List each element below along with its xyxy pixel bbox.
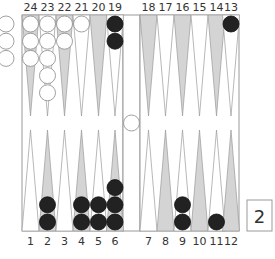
black-checker[interactable]	[40, 214, 56, 230]
black-checker[interactable]	[107, 16, 123, 32]
point-label-5: 5	[95, 235, 102, 248]
white-checker[interactable]	[40, 33, 56, 49]
white-checker[interactable]	[23, 16, 39, 32]
point-label-2: 2	[44, 235, 51, 248]
white-checker[interactable]	[23, 50, 39, 66]
white-checker[interactable]	[40, 68, 56, 84]
point-label-15: 15	[193, 1, 207, 14]
doubling-cube[interactable]: 2	[247, 200, 272, 231]
black-checker[interactable]	[74, 214, 90, 230]
point-label-21: 21	[75, 1, 89, 14]
white-checker[interactable]	[74, 16, 90, 32]
black-checker[interactable]	[91, 214, 107, 230]
black-checker[interactable]	[223, 16, 239, 32]
point-label-18: 18	[142, 1, 156, 14]
white-checker[interactable]	[57, 16, 73, 32]
point-label-11: 11	[210, 235, 224, 248]
black-checker[interactable]	[74, 197, 90, 213]
point-label-9: 9	[179, 235, 186, 248]
white-off-checker[interactable]	[0, 33, 14, 49]
black-checker[interactable]	[209, 214, 225, 230]
black-checker[interactable]	[175, 214, 191, 230]
point-label-13: 13	[224, 1, 238, 14]
point-label-20: 20	[92, 1, 106, 14]
point-label-23: 23	[41, 1, 55, 14]
backgammon-board: 242322212019181716151413 123456789101112…	[0, 0, 275, 259]
white-checker[interactable]	[40, 50, 56, 66]
point-label-8: 8	[162, 235, 169, 248]
white-checker[interactable]	[57, 33, 73, 49]
point-label-7: 7	[145, 235, 152, 248]
black-checker[interactable]	[40, 197, 56, 213]
point-label-19: 19	[108, 1, 122, 14]
top-point-labels: 242322212019181716151413	[24, 1, 239, 14]
point-label-22: 22	[58, 1, 72, 14]
white-off-checker[interactable]	[0, 16, 14, 32]
point-label-1: 1	[27, 235, 34, 248]
black-checker[interactable]	[175, 197, 191, 213]
white-checker[interactable]	[23, 33, 39, 49]
point-label-16: 16	[176, 1, 190, 14]
black-checker[interactable]	[91, 197, 107, 213]
white-bar-checker[interactable]	[124, 115, 140, 131]
black-checker[interactable]	[107, 197, 123, 213]
point-label-6: 6	[112, 235, 119, 248]
white-off-checker[interactable]	[0, 50, 14, 66]
white-checker[interactable]	[40, 16, 56, 32]
board-frame-left	[22, 15, 123, 231]
board-frame-right	[140, 15, 239, 231]
cube-value: 2	[254, 206, 265, 227]
point-label-12: 12	[224, 235, 238, 248]
bottom-point-labels: 123456789101112	[27, 235, 238, 248]
point-label-17: 17	[159, 1, 173, 14]
black-checker[interactable]	[107, 33, 123, 49]
black-checker[interactable]	[107, 214, 123, 230]
point-label-4: 4	[78, 235, 85, 248]
black-checker[interactable]	[107, 180, 123, 196]
point-label-24: 24	[24, 1, 38, 14]
white-checker[interactable]	[40, 85, 56, 101]
point-label-3: 3	[61, 235, 68, 248]
point-label-14: 14	[210, 1, 224, 14]
point-label-10: 10	[193, 235, 207, 248]
